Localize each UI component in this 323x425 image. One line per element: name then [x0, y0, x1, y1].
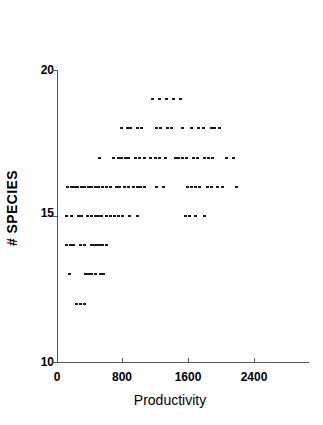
data-point [109, 215, 112, 217]
data-point [105, 186, 108, 188]
data-point [97, 215, 100, 217]
data-point [76, 186, 79, 188]
data-point [213, 127, 216, 129]
data-point [185, 157, 188, 159]
data-point [235, 186, 238, 188]
data-point [221, 186, 224, 188]
data-point [105, 215, 108, 217]
data-point [210, 186, 213, 188]
data-point [69, 244, 72, 246]
data-point [206, 186, 209, 188]
data-point [90, 215, 93, 217]
data-point [90, 273, 93, 275]
data-point [127, 157, 130, 159]
data-point [101, 244, 104, 246]
data-point [99, 244, 102, 246]
data-point [194, 215, 197, 217]
data-point [94, 186, 97, 188]
data-point [96, 244, 99, 246]
x-tick-label-1600: 1600 [168, 371, 208, 383]
data-point [97, 186, 100, 188]
data-point [117, 215, 120, 217]
data-point [162, 186, 165, 188]
data-point [80, 186, 83, 188]
data-point [113, 215, 116, 217]
data-point [151, 98, 154, 100]
data-point [123, 186, 126, 188]
data-point [136, 186, 139, 188]
data-point [101, 186, 104, 188]
y-tick-mark-20 [52, 70, 57, 71]
x-tick-mark-2400 [254, 358, 255, 363]
data-point [70, 186, 73, 188]
data-point [132, 186, 135, 188]
data-point [118, 186, 121, 188]
data-point [164, 157, 167, 159]
data-point [87, 186, 90, 188]
data-point [202, 127, 205, 129]
data-point [84, 273, 87, 275]
data-point [232, 157, 235, 159]
data-point [100, 215, 103, 217]
data-point [65, 215, 68, 217]
data-point [138, 157, 141, 159]
y-tick-label-10: 10 [22, 356, 54, 368]
data-point [65, 244, 68, 246]
data-point [149, 157, 152, 159]
data-point [86, 215, 89, 217]
data-point [225, 157, 228, 159]
data-point [129, 127, 132, 129]
x-tick-mark-800 [122, 358, 123, 363]
data-point [192, 157, 195, 159]
data-point [73, 186, 76, 188]
x-axis-line [57, 362, 309, 363]
y-axis-title-text: # SPECIES [4, 108, 20, 308]
data-point [210, 127, 213, 129]
data-point [158, 98, 161, 100]
y-tick-mark-15 [52, 216, 57, 217]
data-point [184, 215, 187, 217]
data-point [83, 244, 86, 246]
data-point [75, 303, 78, 305]
data-point [159, 127, 162, 129]
data-point [90, 186, 93, 188]
data-point [127, 186, 130, 188]
x-tick-label-2400: 2400 [234, 371, 274, 383]
data-point [105, 244, 108, 246]
data-point [198, 186, 201, 188]
x-axis-title: Productivity [40, 392, 300, 408]
x-tick-mark-0 [57, 358, 58, 363]
data-point [126, 127, 129, 129]
data-point [136, 215, 139, 217]
data-point [194, 186, 197, 188]
data-point [174, 157, 177, 159]
data-point [203, 215, 206, 217]
data-point [79, 244, 82, 246]
data-point [72, 244, 75, 246]
data-point [90, 244, 93, 246]
data-point [188, 215, 191, 217]
data-point [99, 273, 102, 275]
data-point [128, 215, 131, 217]
data-point [68, 273, 71, 275]
data-point [158, 157, 161, 159]
data-point [197, 127, 200, 129]
data-point [77, 215, 80, 217]
data-point [177, 157, 180, 159]
data-point [155, 127, 158, 129]
data-point [190, 186, 193, 188]
data-point [98, 157, 101, 159]
data-point [117, 157, 120, 159]
y-tick-label-15: 15 [22, 207, 54, 219]
data-point [165, 98, 168, 100]
data-point [186, 186, 189, 188]
data-point [83, 186, 86, 188]
scatter-plot-figure: # SPECIES 20 15 10 0 800 1600 2400 Produ… [0, 0, 323, 425]
y-tick-label-20: 20 [22, 64, 54, 76]
data-point [143, 186, 146, 188]
data-point [109, 186, 112, 188]
data-point [196, 157, 199, 159]
data-point [218, 127, 221, 129]
data-point [155, 186, 158, 188]
data-point [170, 127, 173, 129]
